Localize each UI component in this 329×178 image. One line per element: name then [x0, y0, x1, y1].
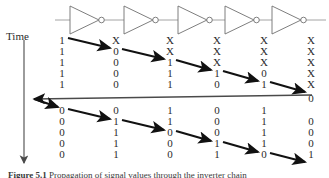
- feedback-line: [34, 95, 312, 99]
- inverter-chain-timing-figure: Time 1 X X X X X 1 0 X X X X 1 0 1 X X X…: [0, 0, 329, 178]
- lower-cell-r4c2: 0: [163, 149, 177, 160]
- figure-caption-text: Propagation of signal values through the…: [49, 170, 247, 178]
- inverter-gate-5: [272, 6, 306, 34]
- inverter-gate-4: [225, 6, 259, 34]
- upper-cell-r4c1: 0: [109, 79, 123, 90]
- upper-cell-r4c3: 0: [210, 79, 224, 90]
- upper-cell-r4c2: 1: [163, 79, 177, 90]
- inverter-gate-2: [124, 6, 158, 34]
- upper-cell-r4c4: 1: [257, 79, 271, 90]
- inverter-gate-3: [178, 6, 212, 34]
- lower-cell-r4c1: 1: [109, 149, 123, 160]
- lower-cell-r4c4: 0: [257, 149, 271, 160]
- lower-cell-r4c3: 1: [210, 149, 224, 160]
- figure-caption: Figure 5.1 Propagation of signal values …: [8, 170, 247, 178]
- figure-caption-number: Figure 5.1: [8, 170, 47, 178]
- upper-cell-r4c0: 1: [55, 79, 69, 90]
- lower-cell-r4c5: 1: [304, 149, 318, 160]
- lower-cell-r4c0: 0: [55, 149, 69, 160]
- time-axis-label: Time: [6, 30, 29, 42]
- feedback-value: 0: [304, 93, 318, 104]
- upper-cell-r4c5: X: [304, 79, 318, 90]
- inverter-gate-1: [70, 6, 104, 34]
